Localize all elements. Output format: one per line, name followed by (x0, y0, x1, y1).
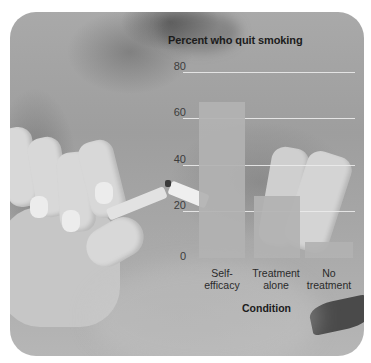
y-tick-40: 40 (156, 153, 186, 165)
y-tick-20: 20 (156, 199, 186, 211)
x-tick-treatment-alone: Treatment alone (246, 267, 306, 291)
x-tick-no-treatment: No treatment (299, 267, 359, 291)
chart-title: Percent who quit smoking (168, 34, 303, 46)
y-tick-60: 60 (156, 106, 186, 118)
bar-chart: Percent who quit smoking 80 60 40 20 0 S… (0, 0, 371, 363)
bar-self-efficacy (199, 102, 245, 258)
y-tick-80: 80 (156, 60, 186, 72)
x-axis-label: Condition (242, 302, 291, 314)
y-tick-0: 0 (156, 250, 186, 262)
bar-no-treatment (305, 242, 353, 258)
x-tick-self-efficacy: Self- efficacy (192, 267, 252, 291)
bar-treatment-alone (254, 196, 300, 258)
gridline-80 (183, 72, 355, 73)
